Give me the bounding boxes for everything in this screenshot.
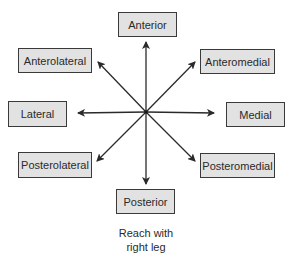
- anterior-label: Anterior: [128, 19, 167, 31]
- medial-box: Medial: [226, 102, 285, 127]
- anterolateral-arrow: [98, 62, 146, 112]
- anterolateral-label: Anterolateral: [24, 55, 86, 67]
- posterior-box: Posterior: [116, 189, 175, 214]
- caption-line-1: Reach with: [96, 226, 196, 240]
- arrows-layer: [0, 0, 293, 257]
- posteromedial-label: Posteromedial: [202, 160, 272, 172]
- caption: Reach with right leg: [96, 226, 196, 254]
- posteromedial-arrow: [146, 112, 195, 161]
- posterolateral-arrow: [97, 112, 146, 161]
- medial-arrow: [146, 112, 214, 113]
- anteromedial-arrow: [146, 62, 195, 112]
- posteromedial-box: Posteromedial: [200, 153, 275, 178]
- posterior-label: Posterior: [123, 196, 167, 208]
- anterior-box: Anterior: [118, 12, 177, 37]
- anterolateral-box: Anterolateral: [18, 48, 92, 73]
- lateral-label: Lateral: [21, 108, 55, 120]
- posterolateral-box: Posterolateral: [18, 152, 92, 178]
- caption-line-2: right leg: [96, 240, 196, 254]
- anteromedial-box: Anteromedial: [200, 49, 275, 74]
- medial-label: Medial: [239, 109, 271, 121]
- lateral-arrow: [78, 112, 146, 113]
- posterolateral-label: Posterolateral: [21, 159, 89, 171]
- center-point: [144, 110, 148, 114]
- anteromedial-label: Anteromedial: [205, 56, 270, 68]
- lateral-box: Lateral: [8, 101, 67, 127]
